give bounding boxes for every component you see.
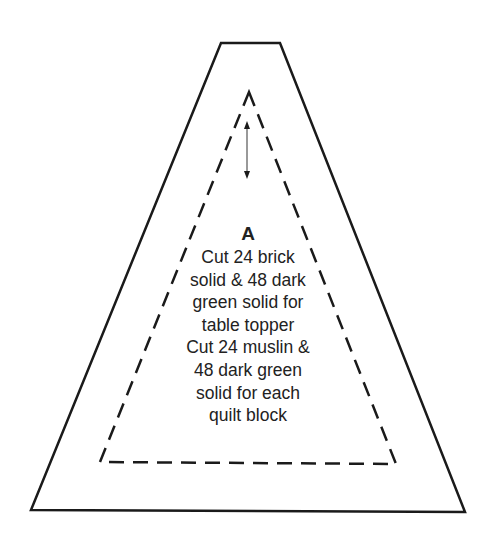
instruction-line: solid for each (150, 382, 346, 405)
grain-arrow-icon (244, 121, 250, 179)
piece-letter: A (150, 222, 346, 246)
instruction-line: table topper (150, 314, 346, 337)
instruction-line: 48 dark green (150, 359, 346, 382)
piece-label: A Cut 24 brick solid & 48 dark green sol… (150, 222, 346, 427)
instruction-line: Cut 24 brick (150, 246, 346, 269)
instruction-line: green solid for (150, 291, 346, 314)
instruction-line: Cut 24 muslin & (150, 336, 346, 359)
instruction-line: solid & 48 dark (150, 269, 346, 292)
instruction-line: quilt block (150, 404, 346, 427)
